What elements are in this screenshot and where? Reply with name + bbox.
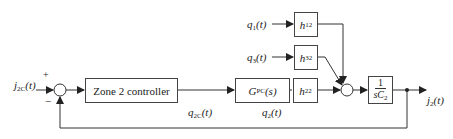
summing-junction-2 [341, 84, 353, 96]
input-label-j2c: j2C(t) [14, 80, 36, 93]
minus-sign: − [45, 96, 51, 107]
q3-input-label: q3(t) [247, 52, 266, 65]
summing-junction-1 [54, 84, 66, 96]
control-block-diagram: j2C(t) + − Zone 2 controller q2C(t) GPC(… [0, 0, 453, 139]
controller-output-label: q2C(t) [188, 107, 212, 120]
q1-input-label: q1(t) [247, 19, 266, 32]
connection-lines [0, 0, 453, 139]
h32-block: h32 [294, 45, 318, 70]
gpc-output-label: q2(t) [262, 107, 281, 120]
h22-block: h22 [293, 78, 318, 103]
plus-sign: + [43, 70, 49, 80]
plant-block-1-over-sc2: 1 sC2 [368, 76, 393, 104]
zone-2-controller-block: Zone 2 controller [85, 78, 178, 103]
branch-point [405, 88, 409, 92]
h12-block: h12 [294, 12, 318, 37]
output-label-j2: j2(t) [427, 95, 444, 108]
gpc-block: GPC(s) [235, 78, 290, 103]
